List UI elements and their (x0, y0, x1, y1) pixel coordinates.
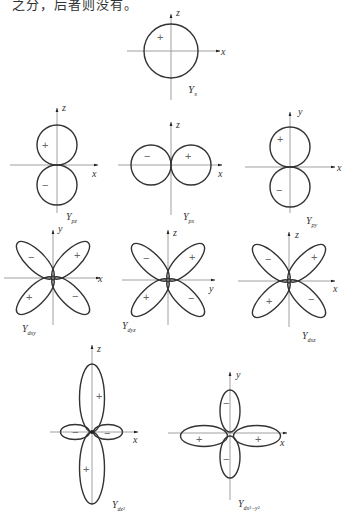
minus-sign: − (42, 179, 48, 191)
minus-sign: − (28, 251, 34, 263)
x-axis-label: x (332, 283, 338, 294)
minus-sign: − (223, 453, 229, 465)
z-axis-label: z (175, 119, 180, 130)
minus-sign: − (104, 427, 110, 439)
orbital-label-dxy: Ydxy (22, 323, 36, 336)
plus-sign: + (189, 251, 195, 263)
plus-sign: + (157, 31, 163, 43)
orbital-label-pz: Ypz (66, 211, 78, 224)
z-axis-label: z (96, 343, 101, 354)
orbital-dxy-diagram: y x − + + − Ydxy (4, 223, 103, 336)
z-axis-label: z (294, 229, 299, 240)
plus-sign: + (83, 463, 89, 475)
x-axis-label: x (91, 168, 97, 179)
x-axis-label: x (132, 434, 138, 445)
orbital-dx2-y2-diagram: y x − + + − Ydx²−y² (168, 369, 287, 511)
plus-sign: + (96, 390, 102, 402)
plus-sign: + (143, 291, 149, 303)
orbital-label-s: Ys (188, 83, 197, 98)
plus-sign: + (277, 133, 283, 145)
plus-sign: + (196, 433, 202, 445)
minus-sign: − (223, 397, 229, 409)
orbital-dyz-diagram: z y − + + − Ydyz (122, 227, 215, 333)
z-axis-label: z (175, 7, 180, 18)
orbital-px-diagram: z x − + Ypx (118, 119, 223, 224)
orbital-angular-distribution-figure: z x + Ys z x + − Ypz z x − + Ypx y x + − (0, 0, 345, 514)
z-axis-label: z (61, 102, 66, 113)
orbital-label-dxz: Ydxz (302, 330, 316, 343)
x-axis-label: x (279, 437, 285, 448)
y-axis-label: y (235, 369, 241, 380)
plus-sign: + (255, 433, 261, 445)
z-axis-label: z (172, 227, 177, 238)
minus-sign: − (308, 293, 314, 305)
orbital-label-px: Ypx (183, 211, 195, 224)
y-axis-label: y (208, 283, 214, 294)
minus-sign: − (143, 252, 149, 264)
plus-sign: + (185, 150, 191, 162)
orbital-dxz-diagram: z x − + + − Ydxz (238, 229, 338, 343)
orbital-dz2-diagram: z x + − − + Ydz² (50, 343, 138, 512)
minus-sign: − (72, 426, 78, 438)
x-axis-label: x (336, 162, 342, 173)
x-axis-label: x (217, 168, 223, 179)
orbital-py-diagram: y x + − Ypy (245, 106, 342, 228)
plus-sign: + (311, 251, 317, 263)
plus-sign: + (42, 139, 48, 151)
minus-sign: − (144, 150, 150, 162)
y-axis-label: y (57, 223, 63, 234)
orbital-s-diagram: z x + Ys (127, 7, 226, 100)
plus-sign: + (266, 295, 272, 307)
orbital-label-py: Ypy (306, 215, 318, 228)
plus-sign: + (26, 291, 32, 303)
orbital-label-dyz: Ydyz (122, 320, 136, 333)
y-axis-label: y (297, 106, 303, 117)
x-axis-label: x (97, 273, 103, 284)
minus-sign: − (188, 292, 194, 304)
orbital-pz-diagram: z x + − Ypz (10, 102, 98, 224)
orbital-label-dx2-y2: Ydx²−y² (238, 498, 260, 511)
minus-sign: − (72, 290, 78, 302)
left-lobe (181, 426, 228, 447)
x-axis-label: x (220, 46, 226, 57)
orbital-label-dz2: Ydz² (112, 499, 125, 512)
plus-sign: + (74, 249, 80, 261)
minus-sign: − (265, 253, 271, 265)
minus-sign: − (276, 184, 282, 196)
